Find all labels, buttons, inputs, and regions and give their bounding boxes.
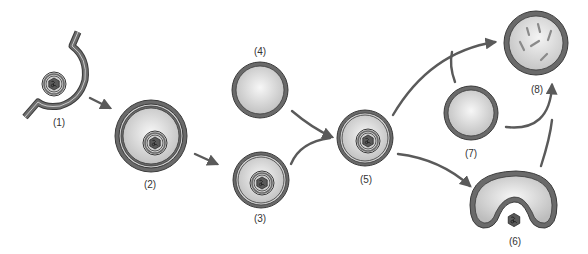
cargo-vesicle-icon [250,171,274,195]
stage-label-1: (1) [53,117,65,128]
arrow-3-to-5 [291,138,330,164]
stage-label-6: (6) [509,236,521,247]
stage-8-degradation: (8) [504,11,568,95]
stage-7-lysosome: (7) [444,86,498,159]
stage-label-8: (8) [531,84,543,95]
autophagy-process-diagram: (1) (2) (3) (4) (5) [0,0,588,254]
cargo-vesicle-icon [143,131,167,155]
stage-label-7: (7) [465,148,477,159]
stage-label-4: (4) [254,46,266,57]
arrow-7-to-8 [506,85,552,127]
arrow-4-to-5 [292,111,332,137]
cargo-vesicle-icon [42,72,66,96]
stage-4-lysosome: (4) [232,46,288,118]
stage-label-5: (5) [360,174,372,185]
cargo-vesicle-icon [356,129,380,153]
stage-label-2: (2) [144,179,156,190]
arrow-5-to-6 [398,154,470,186]
arrow-6-to-8 [541,120,552,166]
arrow-1-to-2 [90,98,110,108]
stage-label-3: (3) [254,213,266,224]
cargo-icon [508,213,519,226]
stage-1-phagophore: (1) [25,32,85,128]
stage-6-exocytosis: (6) [470,171,557,247]
stage-3-autophagosome: (3) [233,152,289,224]
stage-2-autophagosome: (2) [115,100,187,190]
stage-5-autolysosome: (5) [337,110,393,185]
arrow-2-to-3 [195,154,217,164]
